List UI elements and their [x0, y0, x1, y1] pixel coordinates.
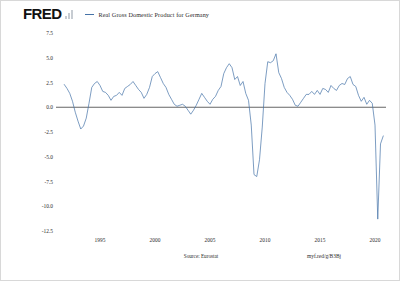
y-axis-tick-layer: 7.55.02.50.0-2.5-5.0-7.5-10.0-12.5 [13, 33, 53, 231]
x-axis-tick-layer: 199520002005201020152020 [56, 237, 386, 247]
x-axis-tick-label: 2010 [260, 237, 271, 243]
chart-header: FRED Real Gross Domestic Product for Ger… [1, 1, 400, 27]
y-axis-tick-label: -7.5 [19, 179, 53, 185]
x-axis-tick-label: 2020 [370, 237, 381, 243]
y-axis-tick-label: -2.5 [19, 129, 53, 135]
x-axis-tick-label: 2005 [205, 237, 216, 243]
plot-region [56, 33, 386, 231]
chart-legend: Real Gross Domestic Product for Germany [85, 11, 209, 18]
y-axis-tick-label: -12.5 [19, 228, 53, 234]
legend-line-swatch [85, 14, 94, 15]
fred-chart-card: FRED Real Gross Domestic Product for Ger… [0, 0, 400, 281]
series-line-gdp [64, 54, 383, 219]
x-axis-tick-label: 2015 [315, 237, 326, 243]
y-axis-tick-label: 0.0 [19, 104, 53, 110]
fred-shortlink[interactable]: myf.red/g/B3Bj [269, 253, 379, 259]
y-axis-tick-label: 2.5 [19, 80, 53, 86]
fred-logo[interactable]: FRED [23, 6, 61, 22]
legend-series-label: Real Gross Domestic Product for Germany [98, 11, 209, 18]
y-axis-tick-label: 7.5 [19, 30, 53, 36]
x-axis-tick-label: 2000 [150, 237, 161, 243]
y-axis-tick-label: -10.0 [19, 203, 53, 209]
y-axis-tick-label: -5.0 [19, 154, 53, 160]
x-axis-tick-label: 1995 [95, 237, 106, 243]
bar-chart-icon [65, 10, 73, 19]
y-axis-tick-label: 5.0 [19, 55, 53, 61]
chart-plot-svg [56, 33, 386, 231]
